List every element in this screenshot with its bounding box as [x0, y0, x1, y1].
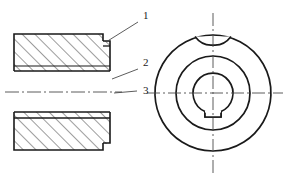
technical-drawing-canvas: 1 2 3: [0, 0, 290, 183]
callout-label-1: 1: [143, 9, 149, 21]
callout-label-2: 2: [143, 56, 149, 68]
callout-group: 1 2 3: [106, 9, 149, 96]
callout-3[interactable]: 3: [114, 84, 149, 96]
callout-2[interactable]: 2: [112, 56, 149, 79]
front-view-group: [147, 13, 283, 174]
callout-label-3: 3: [143, 84, 149, 96]
section-view-group: [5, 34, 122, 150]
leader-line-1: [106, 22, 138, 42]
drawing-svg: 1 2 3: [0, 0, 290, 183]
callout-1[interactable]: 1: [106, 9, 149, 42]
leader-line-2: [112, 69, 138, 79]
